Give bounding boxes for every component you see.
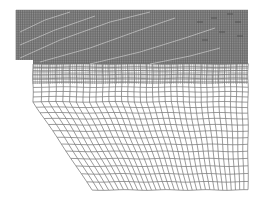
mesh-figure <box>0 0 256 205</box>
fe-mesh-grid <box>33 64 249 191</box>
